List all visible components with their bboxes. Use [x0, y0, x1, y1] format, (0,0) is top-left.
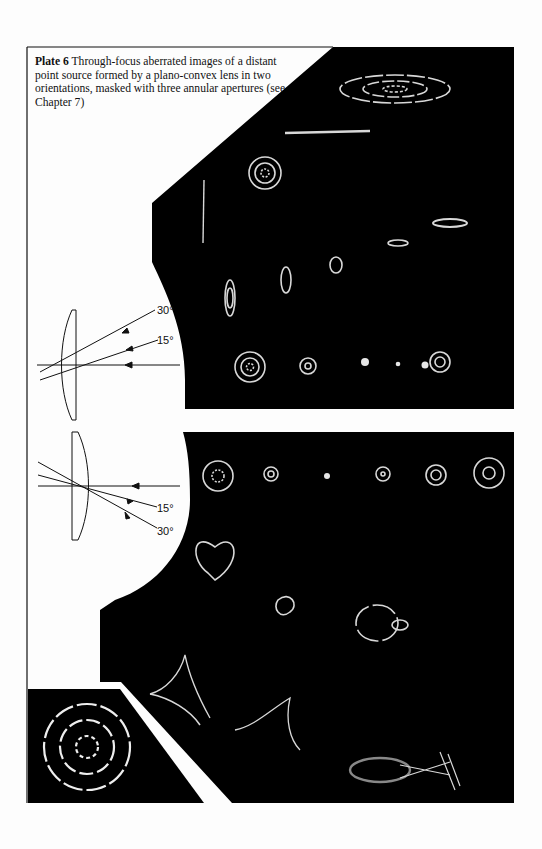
lower-lens-diagram — [38, 432, 180, 540]
upper-angle-30: 30° — [157, 304, 174, 316]
upper-lens-diagram — [37, 310, 180, 420]
plate-figure: 30° 15° 15° 30° — [0, 0, 542, 849]
lower-focus-spot — [324, 473, 330, 479]
lower-angle-15: 15° — [157, 502, 174, 514]
upper-angle-15: 15° — [157, 334, 174, 346]
upper-panel — [152, 47, 514, 409]
lower-angle-30: 30° — [157, 525, 174, 537]
